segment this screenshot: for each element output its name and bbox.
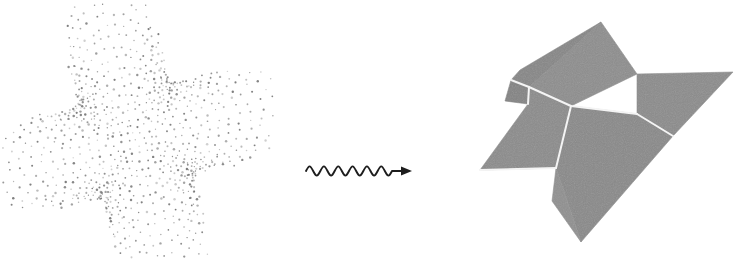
point-cloud-dot — [235, 138, 237, 140]
point-cloud-dot — [157, 115, 158, 116]
point-cloud-dot — [136, 126, 138, 128]
point-cloud-dot — [79, 47, 81, 49]
point-cloud-dot — [120, 160, 122, 162]
point-cloud-dot — [161, 79, 162, 80]
point-cloud-dot — [139, 184, 141, 186]
point-cloud-dot — [83, 40, 85, 42]
point-cloud-dot — [200, 243, 202, 245]
point-cloud-dot — [152, 202, 154, 204]
point-cloud-dot — [71, 73, 72, 74]
point-cloud-dot — [25, 143, 26, 144]
point-cloud-dot — [246, 83, 248, 85]
point-cloud-dot — [152, 245, 154, 247]
point-cloud-dot — [182, 210, 184, 212]
point-cloud-dot — [42, 205, 44, 207]
point-cloud-dot — [78, 75, 80, 77]
point-cloud-dot — [154, 90, 156, 92]
point-cloud-dot — [21, 200, 23, 202]
point-cloud-dot — [147, 117, 149, 119]
point-cloud-dot — [147, 185, 149, 187]
point-cloud-dot — [113, 14, 115, 16]
point-cloud-dot — [157, 109, 159, 111]
point-cloud-dot — [135, 9, 137, 11]
point-cloud-dot — [170, 170, 172, 172]
point-cloud-dot — [96, 16, 98, 18]
point-cloud-dot — [125, 207, 127, 209]
point-cloud-dot — [202, 213, 204, 215]
point-cloud-dot — [114, 159, 116, 161]
point-cloud-dot — [74, 80, 75, 81]
point-cloud-dot — [31, 165, 33, 167]
point-cloud-dot — [62, 200, 64, 202]
point-cloud-dot — [98, 125, 99, 126]
point-cloud-dot — [67, 66, 69, 68]
point-cloud-dot — [64, 186, 67, 189]
point-cloud-dot — [135, 240, 137, 242]
point-cloud-dot — [151, 54, 153, 56]
point-cloud-dot — [112, 132, 114, 134]
point-cloud-dot — [218, 135, 220, 137]
point-cloud-dot — [149, 91, 152, 94]
point-cloud-dot — [264, 139, 266, 141]
point-cloud-dot — [175, 209, 177, 211]
point-cloud-dot — [259, 124, 260, 125]
point-cloud-dot — [272, 115, 274, 117]
point-cloud-dot — [191, 94, 193, 96]
point-cloud-dot — [136, 51, 138, 53]
point-cloud-dot — [105, 144, 107, 146]
point-cloud-dot — [100, 38, 102, 40]
point-cloud-dot — [99, 89, 101, 91]
point-cloud-dot — [174, 86, 175, 87]
point-cloud-dot — [111, 181, 113, 183]
point-cloud-dot — [72, 181, 74, 183]
point-cloud-dot — [111, 135, 114, 138]
point-cloud-dot — [123, 26, 124, 27]
point-cloud-dot — [69, 109, 71, 111]
point-cloud-dot — [128, 222, 129, 223]
mesh-panel — [435, 0, 754, 261]
point-cloud-dot — [87, 100, 89, 102]
point-cloud-dot — [54, 137, 56, 139]
point-cloud-dot — [204, 170, 206, 172]
point-cloud-dot — [92, 157, 94, 159]
point-cloud-dot — [134, 67, 136, 69]
point-cloud-dot — [123, 85, 125, 87]
point-cloud-dot — [147, 28, 149, 30]
point-cloud-dot — [104, 201, 106, 203]
point-cloud-dot — [171, 252, 172, 253]
point-cloud-dot — [93, 195, 94, 196]
point-cloud-dot — [91, 78, 93, 80]
point-cloud-dot — [260, 98, 262, 100]
point-cloud-dot — [88, 183, 90, 185]
point-cloud-dot — [183, 226, 185, 228]
point-cloud-dot — [83, 12, 85, 14]
point-cloud-dot — [120, 252, 122, 254]
point-cloud-dot — [150, 70, 152, 72]
point-cloud-dot — [107, 134, 109, 136]
point-cloud-dot — [146, 39, 148, 41]
point-cloud-dot — [27, 192, 29, 194]
point-cloud-dot — [111, 214, 113, 216]
point-cloud-dot — [82, 101, 84, 103]
point-cloud-dot — [270, 78, 272, 80]
point-cloud-dot — [261, 118, 263, 120]
point-cloud-dot — [167, 163, 169, 165]
point-cloud-dot — [55, 113, 57, 115]
point-cloud-dot — [175, 136, 177, 138]
point-cloud-dot — [128, 120, 130, 122]
point-cloud-dot — [79, 57, 80, 58]
point-cloud-dot — [113, 47, 115, 49]
point-cloud-dot — [157, 102, 159, 104]
point-cloud-dot — [236, 149, 238, 151]
point-cloud-dot — [199, 168, 201, 170]
point-cloud-dot — [147, 149, 149, 151]
point-cloud-dot — [179, 100, 180, 101]
point-cloud-dot — [51, 129, 53, 131]
point-cloud-dot — [250, 120, 251, 121]
point-cloud-dot — [118, 214, 120, 216]
point-cloud-dot — [187, 162, 188, 163]
point-cloud-dot — [75, 82, 77, 84]
point-cloud-dot — [151, 35, 153, 37]
point-cloud-dot — [171, 239, 173, 241]
point-cloud-dot — [182, 161, 184, 163]
